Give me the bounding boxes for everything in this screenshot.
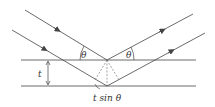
theta-right-label: θ — [126, 50, 132, 60]
thickness-label: t — [38, 69, 42, 79]
path-difference-label: t sin θ — [93, 93, 122, 103]
reflected-ray-2 — [107, 33, 205, 86]
reflected-ray-1 — [107, 14, 193, 60]
incident-ray-2-arrow — [41, 47, 45, 49]
incident-ray-1-arrow — [54, 28, 58, 30]
perp-dashed-left — [95, 60, 107, 80]
reflected-ray-2-arrow — [168, 51, 172, 53]
reflected-ray-1-arrow — [159, 30, 163, 32]
theta-left-label: θ — [81, 50, 87, 60]
angle-arc-right — [131, 47, 134, 60]
incident-ray-2 — [12, 30, 107, 86]
incident-ray-1 — [25, 10, 107, 60]
perp-dashed-right — [107, 60, 119, 80]
bragg-diagram: θ θ t t sin θ — [0, 0, 215, 107]
angle-arc-bottom — [95, 84, 100, 89]
